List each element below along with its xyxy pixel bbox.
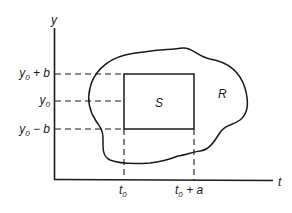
region-s-label: S	[155, 96, 163, 110]
tick-label-t0-plus-a: t0 + a	[175, 183, 203, 199]
region-r-label: R	[218, 87, 227, 101]
tick-label-y0: y0	[39, 93, 51, 109]
tick-label-t0: t0	[119, 183, 127, 199]
t-axis-label: t	[278, 175, 282, 189]
tick-label-y0-plus-b: y0 + b	[18, 66, 50, 82]
t-axis	[54, 180, 273, 181]
region-diagram: y t y0 + b y0 y0 − b t0 t0 + a S R	[0, 0, 292, 213]
tick-label-y0-minus-b: y0 − b	[18, 122, 50, 138]
horizontal-guides	[55, 74, 124, 129]
region-r-boundary	[89, 48, 247, 164]
y-axis-label: y	[50, 13, 58, 27]
